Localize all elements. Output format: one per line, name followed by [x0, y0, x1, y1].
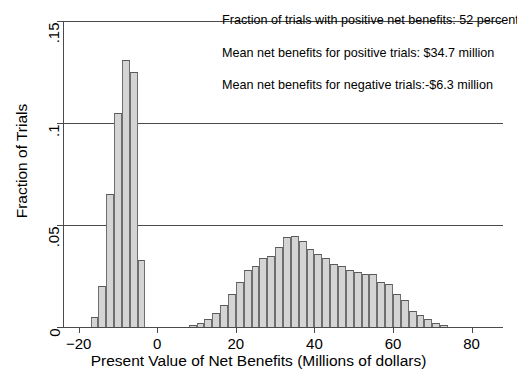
histogram-bar [362, 274, 370, 327]
annotation-line: Mean net benefits for negative trials:-$… [222, 79, 512, 92]
histogram-bar [424, 319, 432, 327]
y-tick-label: .1 [46, 125, 63, 138]
y-tick-label-wrap: 0 [0, 320, 54, 334]
histogram-bar [91, 317, 99, 327]
x-tick-mark [157, 327, 158, 333]
histogram-bar [291, 236, 299, 327]
histogram-bar [299, 241, 307, 327]
x-tick-mark [236, 327, 237, 333]
x-axis-line [63, 327, 503, 328]
x-tick-mark [79, 327, 80, 333]
histogram-bar [204, 319, 212, 327]
x-tick-label: −20 [49, 335, 109, 352]
histogram-bar [220, 305, 228, 327]
y-tick-label: .15 [46, 23, 63, 44]
x-tick-label: 40 [284, 335, 344, 352]
histogram-bar [346, 270, 354, 327]
histogram-bar [314, 254, 322, 327]
histogram-bar [197, 323, 205, 327]
histogram-bar [122, 60, 130, 327]
y-tick-label-wrap: .15 [0, 14, 54, 28]
histogram-bar [338, 266, 346, 327]
histogram-bar [106, 194, 114, 327]
histogram-chart: 0.05.1.15 −20020406080 Present Value of … [0, 0, 517, 380]
histogram-bar [244, 270, 252, 327]
x-tick-mark [393, 327, 394, 333]
x-tick-label: 60 [363, 335, 423, 352]
histogram-bar [189, 325, 197, 327]
histogram-bar [228, 294, 236, 327]
histogram-bar [283, 237, 291, 327]
x-tick-label: 0 [127, 335, 187, 352]
histogram-bar [354, 272, 362, 327]
x-axis-label: Present Value of Net Benefits (Millions … [0, 352, 517, 370]
histogram-bar [114, 113, 122, 327]
x-tick-label: 20 [206, 335, 266, 352]
histogram-bar [259, 258, 267, 327]
x-tick-mark [314, 327, 315, 333]
histogram-bar [417, 315, 425, 327]
x-tick-label: 80 [442, 335, 502, 352]
histogram-bar [307, 249, 315, 327]
histogram-bar [275, 247, 283, 327]
histogram-bar [212, 313, 220, 327]
histogram-bar [440, 325, 448, 327]
histogram-bar [369, 274, 377, 327]
histogram-bar [393, 294, 401, 327]
histogram-bar [267, 256, 275, 327]
histogram-bar [98, 286, 106, 327]
histogram-bar [409, 311, 417, 327]
annotation-block: Fraction of trials with positive net ben… [222, 14, 512, 112]
histogram-bar [322, 258, 330, 327]
histogram-bar [377, 282, 385, 327]
histogram-bar [252, 266, 260, 327]
histogram-bar [130, 72, 138, 327]
y-axis-label: Fraction of Trials [13, 61, 31, 261]
histogram-bar [401, 300, 409, 327]
y-tick-label: .05 [46, 227, 63, 248]
annotation-line: Fraction of trials with positive net ben… [222, 14, 512, 27]
histogram-bar [330, 264, 338, 327]
histogram-bar [385, 284, 393, 327]
x-tick-mark [472, 327, 473, 333]
histogram-bar [236, 282, 244, 327]
histogram-bar [432, 323, 440, 327]
annotation-line: Mean net benefits for positive trials: $… [222, 47, 512, 60]
histogram-bar [138, 260, 146, 327]
